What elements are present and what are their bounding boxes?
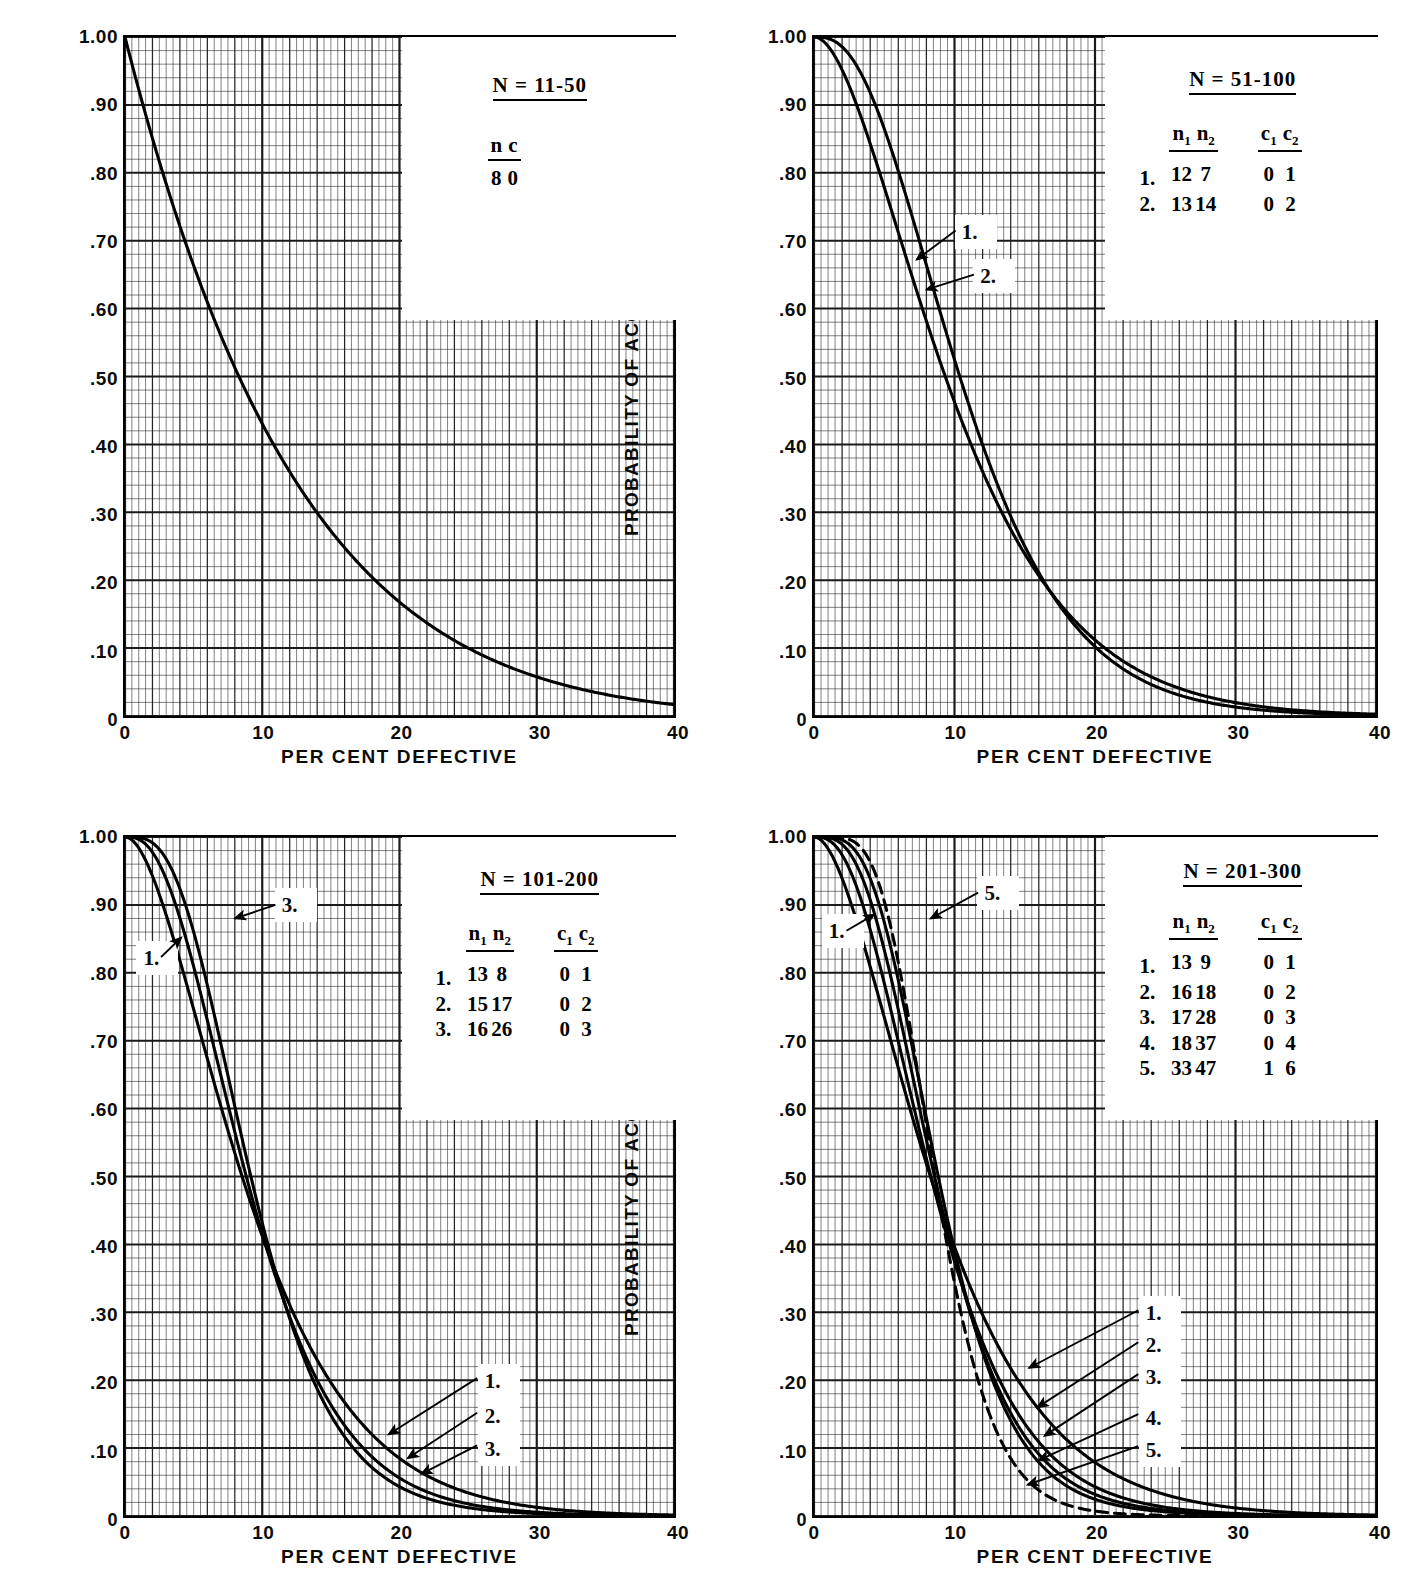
legend-index-header bbox=[1139, 909, 1169, 945]
legend-cell: 37 bbox=[1194, 1031, 1218, 1057]
legend-row-index: 2. bbox=[436, 992, 466, 1018]
panel-3-legend-header-2: n2 bbox=[490, 921, 514, 957]
panel-1-legend-header-2: c bbox=[505, 133, 520, 166]
legend-row-index: 1. bbox=[1139, 157, 1169, 192]
legend-row-index: 2. bbox=[1139, 192, 1169, 218]
legend-row-index: 3. bbox=[1139, 1005, 1169, 1031]
legend-index-header bbox=[436, 921, 466, 957]
legend-cell: 0 bbox=[514, 957, 576, 992]
panel-4-y-tick: .10 bbox=[779, 1441, 807, 1463]
legend-cell: 8 bbox=[490, 957, 514, 992]
panel-3-legend-header-3: c1 bbox=[514, 921, 576, 957]
legend-row-index bbox=[458, 166, 488, 192]
legend-cell: 0 bbox=[1218, 980, 1280, 1006]
panel-4-x-axis-title: PER CENT DEFECTIVE bbox=[977, 1546, 1214, 1568]
legend-cell: 4 bbox=[1280, 1031, 1302, 1057]
panel-3-legend-table: n1n2c1c21.138012.1517023.162603 bbox=[436, 921, 598, 1043]
panel-3-legend-header-4: c2 bbox=[576, 921, 598, 957]
legend-cell: 13 bbox=[1169, 192, 1193, 218]
legend-cell: 1 bbox=[576, 957, 598, 992]
panel-4-y-tick: .40 bbox=[779, 1236, 807, 1258]
panel-4-y-tick: .30 bbox=[779, 1304, 807, 1326]
panel-4-legend-row: 5.334716 bbox=[1139, 1056, 1301, 1082]
panel-4-legend-row: 4.183704 bbox=[1139, 1031, 1301, 1057]
legend-cell: 1 bbox=[1280, 945, 1302, 980]
legend-cell: 28 bbox=[1194, 1005, 1218, 1031]
panel-3-legend-title: N = 101-200 bbox=[402, 867, 679, 892]
panel-4-callout-label: 1. bbox=[1146, 1301, 1162, 1326]
panel-4-legend-header-1: n1 bbox=[1169, 909, 1193, 945]
legend-cell: 0 bbox=[1218, 1031, 1280, 1057]
panel-2-legend: N = 51-100n1n2c1c21.127012.131402 bbox=[1105, 37, 1380, 320]
panel-4-legend-header-4: c2 bbox=[1280, 909, 1302, 945]
panel-4-legend-header-2: n2 bbox=[1194, 909, 1218, 945]
legend-cell: 6 bbox=[1280, 1056, 1302, 1082]
panel-3-legend-row: 1.13801 bbox=[436, 957, 598, 992]
panel-4-plot-area: N = 201-300n1n2c1c21.139012.1618023.1728… bbox=[812, 835, 1378, 1518]
panel-3-callout-label: 1. bbox=[485, 1369, 501, 1394]
panel-4-legend-row: 3.172803 bbox=[1139, 1005, 1301, 1031]
legend-cell: 2 bbox=[1280, 192, 1302, 218]
panel-4-x-tick: 40 bbox=[1369, 1522, 1391, 1544]
panel-1-legend-row: 80 bbox=[458, 166, 521, 192]
panel-4-x-tick: 10 bbox=[944, 1522, 966, 1544]
legend-cell: 1 bbox=[1218, 1056, 1280, 1082]
panel-4-x-tick: 0 bbox=[808, 1522, 819, 1544]
panel-4-y-tick: .80 bbox=[779, 963, 807, 985]
legend-cell: 18 bbox=[1194, 980, 1218, 1006]
legend-cell: 1 bbox=[1280, 157, 1302, 192]
legend-cell: 0 bbox=[1218, 192, 1280, 218]
panel-4-callout-label: 5. bbox=[984, 881, 1000, 906]
panel-4-legend-title: N = 201-300 bbox=[1105, 859, 1380, 884]
panel-2-legend-table: n1n2c1c21.127012.131402 bbox=[1139, 121, 1301, 217]
legend-cell: 47 bbox=[1194, 1056, 1218, 1082]
legend-cell: 8 bbox=[488, 166, 506, 192]
panel-3-legend-row: 3.162603 bbox=[436, 1017, 598, 1043]
legend-cell: 16 bbox=[1169, 980, 1193, 1006]
legend-index-header bbox=[1139, 121, 1169, 157]
panel-3-legend-row: 2.151702 bbox=[436, 992, 598, 1018]
panel-4-legend: N = 201-300n1n2c1c21.139012.1618023.1728… bbox=[1105, 837, 1380, 1120]
panel-4-callout-label: 4. bbox=[1146, 1405, 1162, 1430]
panel-3-legend: N = 101-200n1n2c1c21.138012.1517023.1626… bbox=[402, 837, 679, 1120]
panel-4-y-tick: .90 bbox=[779, 894, 807, 916]
panel-2-legend-header-2: n2 bbox=[1194, 121, 1218, 157]
legend-cell: 13 bbox=[466, 957, 490, 992]
panel-1-legend-header-1: n bbox=[488, 133, 506, 166]
panel-2-legend-header-4: c2 bbox=[1280, 121, 1302, 157]
legend-cell: 16 bbox=[466, 1017, 490, 1043]
panel-3-callout-label: 1. bbox=[143, 945, 159, 970]
panel-2-legend-row: 1.12701 bbox=[1139, 157, 1301, 192]
legend-row-index: 5. bbox=[1139, 1056, 1169, 1082]
legend-cell: 2 bbox=[1280, 980, 1302, 1006]
legend-cell: 0 bbox=[1218, 157, 1280, 192]
panel-4-callout-label: 2. bbox=[1146, 1333, 1162, 1358]
legend-index-header bbox=[458, 133, 488, 166]
legend-cell: 13 bbox=[1169, 945, 1193, 980]
legend-cell: 0 bbox=[505, 166, 520, 192]
panel-4-y-tick: .70 bbox=[779, 1031, 807, 1053]
panel-4-legend-row: 1.13901 bbox=[1139, 945, 1301, 980]
panel-3-callout-label: 2. bbox=[485, 1404, 501, 1429]
legend-row-index: 3. bbox=[436, 1017, 466, 1043]
panel-4-callout-label: 3. bbox=[1146, 1365, 1162, 1390]
panel-2-legend-title: N = 51-100 bbox=[1105, 67, 1380, 92]
legend-cell: 12 bbox=[1169, 157, 1193, 192]
legend-cell: 14 bbox=[1194, 192, 1218, 218]
panel-4-y-tick: 0 bbox=[796, 1510, 807, 1531]
panel-2-legend-header-3: c1 bbox=[1218, 121, 1280, 157]
panel-2-callout-label: 1. bbox=[962, 219, 978, 244]
panel-2-legend-header-1: n1 bbox=[1169, 121, 1193, 157]
legend-cell: 7 bbox=[1194, 157, 1218, 192]
legend-cell: 0 bbox=[1218, 945, 1280, 980]
panel-4-y-tick: .50 bbox=[779, 1168, 807, 1190]
panel-3-callout-label: 3. bbox=[282, 893, 298, 918]
legend-row-index: 4. bbox=[1139, 1031, 1169, 1057]
panel-4-legend-table: n1n2c1c21.139012.1618023.1728034.1837045… bbox=[1139, 909, 1301, 1082]
panel-3-callout-label: 3. bbox=[485, 1436, 501, 1461]
panel-2-legend-row: 2.131402 bbox=[1139, 192, 1301, 218]
legend-cell: 26 bbox=[490, 1017, 514, 1043]
panel-4-x-tick: 20 bbox=[1086, 1522, 1108, 1544]
panel-2-callout-label: 2. bbox=[980, 264, 996, 289]
panel-1-legend: N = 11-50nc80 bbox=[402, 37, 679, 320]
